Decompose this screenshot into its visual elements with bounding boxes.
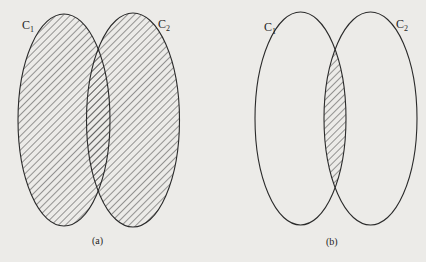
panel-b-caption: (b): [326, 236, 338, 248]
panel-a: C1 C2 (a): [18, 13, 180, 247]
venn-diagram-figure: C1 C2 (a) C1 C2 (b): [0, 0, 426, 262]
panel-a-label-c1: C1: [22, 18, 34, 34]
panel-a-label-c2: C2: [158, 17, 170, 33]
panel-b-label-c1: C1: [264, 20, 276, 36]
panel-b-label-c2: C2: [396, 17, 408, 33]
panel-b-intersection-fill: [324, 12, 417, 225]
panel-b: C1 C2 (b): [255, 12, 417, 248]
panel-a-set-c2-fill: [87, 13, 180, 227]
venn-diagram-canvas: C1 C2 (a) C1 C2 (b): [0, 0, 426, 262]
panel-a-caption: (a): [92, 235, 103, 247]
